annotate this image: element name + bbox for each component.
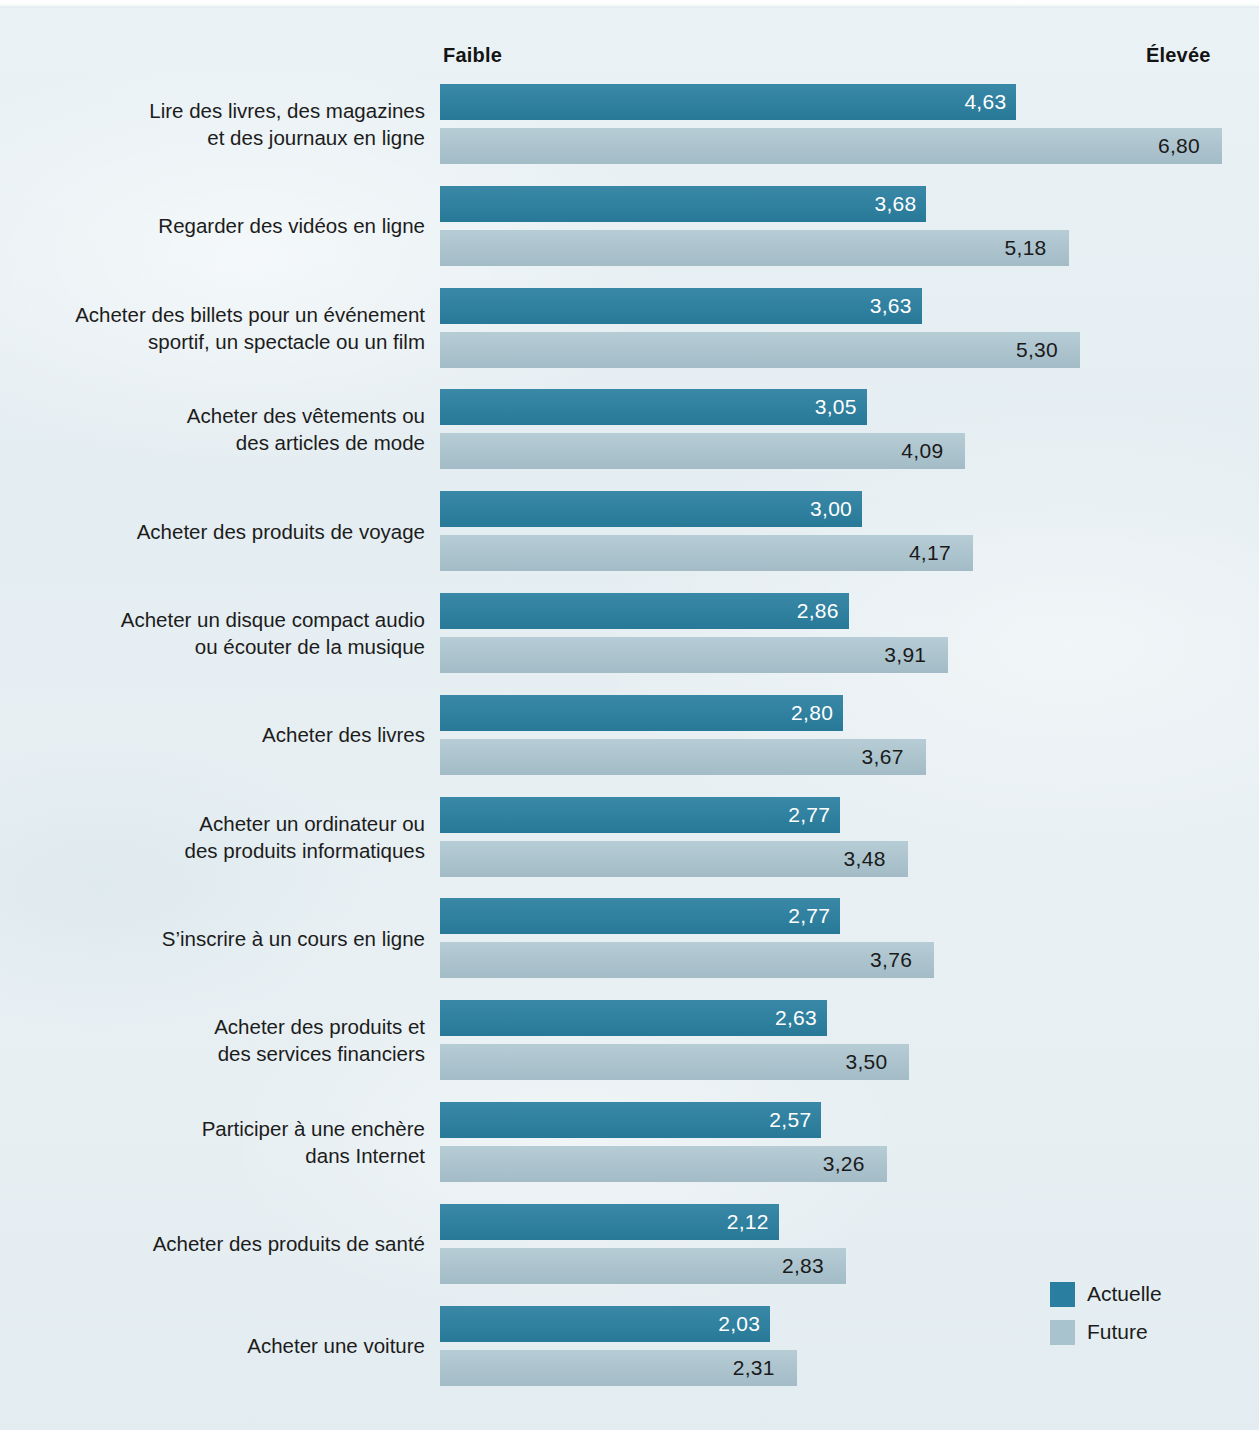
bar-fill-current [440,1000,827,1036]
bar-current[interactable]: 2,12 [440,1204,779,1240]
bar-value-label: 4,09 [901,433,943,469]
bar-fill-future [440,841,908,877]
bar-value-label: 4,17 [909,535,951,571]
bar-future[interactable]: 2,83 [440,1248,846,1284]
bar-current[interactable]: 2,77 [440,797,840,833]
bar-future[interactable]: 3,91 [440,637,948,673]
bar-fill-current [440,84,1016,120]
bar-future[interactable]: 3,50 [440,1044,909,1080]
bar-fill-current [440,797,840,833]
bar-current[interactable]: 2,57 [440,1102,821,1138]
chart-group: Lire des livres, des magazines et des jo… [0,84,1259,164]
bar-value-label: 3,48 [844,841,886,877]
bar-value-label: 5,18 [1005,230,1047,266]
chart-group: Participer à une enchère dans Internet2,… [0,1102,1259,1182]
chart-group: Acheter des produits de voyage3,004,17 [0,491,1259,571]
bar-value-label: 3,63 [870,288,912,324]
bar-fill-current [440,491,862,527]
category-label: Acheter des vêtements ou des articles de… [0,402,425,456]
chart-group: Acheter un ordinateur ou des produits in… [0,797,1259,877]
bar-value-label: 3,76 [870,942,912,978]
chart-container: Faible Élevée Lire des livres, des magaz… [0,0,1259,1430]
bar-current[interactable]: 2,03 [440,1306,770,1342]
bar-future[interactable]: 3,67 [440,739,926,775]
chart-group: Regarder des vidéos en ligne3,685,18 [0,186,1259,266]
legend-label-future: Future [1087,1320,1148,1344]
bar-value-label: 2,31 [733,1350,775,1386]
bar-fill-current [440,288,922,324]
category-label: Acheter des produits de voyage [0,518,425,545]
bar-fill-future [440,1146,887,1182]
bar-fill-future [440,332,1080,368]
category-label: Acheter un disque compact audio ou écout… [0,606,425,660]
bar-value-label: 2,12 [727,1204,769,1240]
bar-value-label: 3,68 [874,186,916,222]
bar-value-label: 3,00 [810,491,852,527]
bar-fill-future [440,739,926,775]
bar-future[interactable]: 4,17 [440,535,973,571]
bar-current[interactable]: 2,80 [440,695,843,731]
bar-future[interactable]: 3,26 [440,1146,887,1182]
category-label: Acheter des produits de santé [0,1230,425,1257]
category-label: S’inscrire à un cours en ligne [0,925,425,952]
bar-value-label: 3,05 [815,389,857,425]
bar-current[interactable]: 2,86 [440,593,849,629]
bar-value-label: 2,83 [782,1248,824,1284]
bar-fill-current [440,186,926,222]
bar-value-label: 6,80 [1158,128,1200,164]
bar-fill-future [440,1044,909,1080]
category-label: Lire des livres, des magazines et des jo… [0,97,425,151]
chart-group: Acheter des billets pour un événement sp… [0,288,1259,368]
chart-group: S’inscrire à un cours en ligne2,773,76 [0,898,1259,978]
bar-fill-current [440,898,840,934]
bar-future[interactable]: 3,76 [440,942,934,978]
chart-group: Acheter des livres2,803,67 [0,695,1259,775]
bar-value-label: 2,77 [788,797,830,833]
bar-fill-current [440,695,843,731]
bar-value-label: 2,03 [718,1306,760,1342]
bar-value-label: 2,77 [788,898,830,934]
bar-fill-future [440,230,1069,266]
bar-current[interactable]: 4,63 [440,84,1016,120]
bar-future[interactable]: 2,31 [440,1350,797,1386]
bar-current[interactable]: 2,77 [440,898,840,934]
axis-label-low: Faible [443,44,502,68]
axis-label-high: Élevée [1146,44,1211,68]
bar-future[interactable]: 5,18 [440,230,1069,266]
plot-area: Lire des livres, des magazines et des jo… [0,80,1259,1400]
bar-value-label: 3,26 [823,1146,865,1182]
bar-value-label: 3,67 [862,739,904,775]
bar-current[interactable]: 3,05 [440,389,867,425]
bar-fill-future [440,433,965,469]
bar-current[interactable]: 3,63 [440,288,922,324]
bar-current[interactable]: 2,63 [440,1000,827,1036]
bar-current[interactable]: 3,00 [440,491,862,527]
chart-legend: Actuelle Future [1050,1275,1250,1351]
bar-future[interactable]: 4,09 [440,433,965,469]
bar-fill-current [440,593,849,629]
legend-item-future[interactable]: Future [1050,1313,1250,1351]
legend-swatch-future [1050,1320,1075,1345]
page-top-edge [0,0,1259,8]
legend-swatch-actuelle [1050,1282,1075,1307]
chart-group: Acheter un disque compact audio ou écout… [0,593,1259,673]
bar-fill-current [440,389,867,425]
chart-group: Acheter des vêtements ou des articles de… [0,389,1259,469]
bar-future[interactable]: 3,48 [440,841,908,877]
bar-value-label: 2,57 [769,1102,811,1138]
bar-value-label: 2,86 [797,593,839,629]
bar-value-label: 5,30 [1016,332,1058,368]
bar-value-label: 2,63 [775,1000,817,1036]
bar-future[interactable]: 5,30 [440,332,1080,368]
category-label: Participer à une enchère dans Internet [0,1115,425,1169]
category-label: Regarder des vidéos en ligne [0,212,425,239]
category-label: Acheter un ordinateur ou des produits in… [0,810,425,864]
bar-current[interactable]: 3,68 [440,186,926,222]
bar-fill-future [440,128,1222,164]
bar-value-label: 3,91 [884,637,926,673]
bar-future[interactable]: 6,80 [440,128,1222,164]
legend-item-actuelle[interactable]: Actuelle [1050,1275,1250,1313]
chart-group: Acheter des produits et des services fin… [0,1000,1259,1080]
category-label: Acheter des billets pour un événement sp… [0,301,425,355]
bar-fill-future [440,637,948,673]
